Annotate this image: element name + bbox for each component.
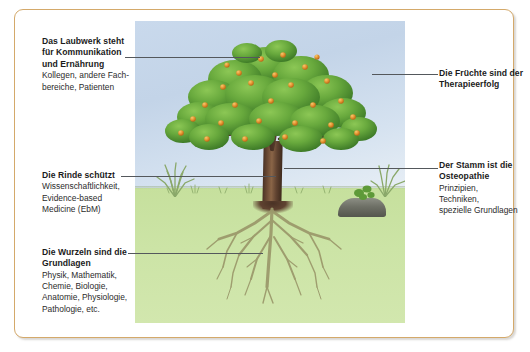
tree-illustration	[135, 21, 405, 323]
callout-stamm: Der Stamm ist die Osteopathie Prinzipien…	[439, 160, 530, 217]
figure-panel: Das Laubwerk steht für Kommunikation und…	[14, 9, 514, 338]
callout-wurzeln-heading: Die Wurzeln sind die Grundlagen	[42, 247, 146, 270]
callout-rinde: Die Rinde schützt Wissenschaftlichkeit, …	[42, 170, 138, 215]
callout-laubwerk-heading: Das Laubwerk steht für Kommunikation und…	[42, 36, 138, 70]
rock-shrub	[349, 181, 379, 203]
callout-wurzeln: Die Wurzeln sind die Grundlagen Physik, …	[42, 247, 146, 315]
callout-laubwerk-body: Kollegen, andere Fach- bereiche, Patient…	[42, 70, 138, 93]
callout-laubwerk: Das Laubwerk steht für Kommunikation und…	[42, 36, 138, 93]
callout-rinde-heading: Die Rinde schützt	[42, 170, 138, 181]
callout-fruechte: Die Früchte sind der Therapieerfolg	[439, 68, 527, 91]
leader-line-fruechte	[372, 74, 438, 75]
tree-roots	[197, 207, 347, 317]
leader-line-rinde	[121, 176, 276, 177]
callout-wurzeln-body: Physik, Mathematik, Chemie, Biologie, An…	[42, 270, 146, 315]
callout-fruechte-heading: Die Früchte sind der Therapieerfolg	[439, 68, 527, 91]
tree-canopy	[135, 21, 405, 156]
leader-line-laubwerk	[125, 57, 260, 58]
callout-stamm-heading: Der Stamm ist die Osteopathie	[439, 160, 530, 183]
leader-line-stamm	[284, 168, 438, 169]
callout-rinde-body: Wissenschaftlichkeit, Evidence-based Med…	[42, 181, 138, 215]
canopy-svg	[135, 21, 405, 161]
callout-stamm-body: Prinzipien, Techniken, spezielle Grundla…	[439, 183, 530, 217]
leader-line-wurzeln	[128, 253, 263, 254]
